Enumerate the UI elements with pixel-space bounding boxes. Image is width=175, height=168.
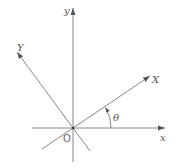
angle-arc — [106, 108, 112, 129]
angle-label: θ — [113, 112, 119, 123]
y-axis-label: y — [63, 5, 70, 16]
rotated-y-axis — [17, 52, 90, 151]
origin-label: O — [63, 133, 71, 144]
rotated-x-axis — [42, 76, 150, 149]
x-axis-label: x — [160, 132, 166, 143]
rotated-y-axis-label: Y — [17, 42, 25, 53]
origin-point — [72, 127, 75, 130]
rotated-x-axis-label: X — [151, 74, 160, 85]
rotated-axes-diagram: y x X Y O θ — [0, 0, 175, 168]
